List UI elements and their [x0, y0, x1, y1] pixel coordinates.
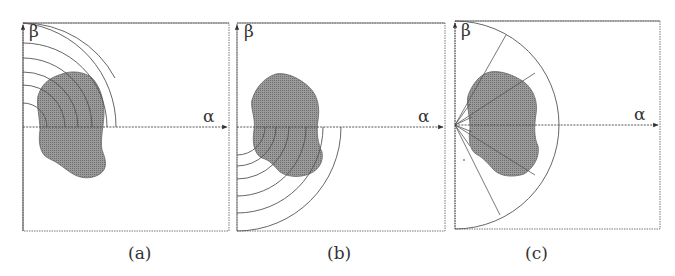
- panel-c-dot: [463, 159, 465, 161]
- panel-c-beta-label: β: [461, 20, 471, 40]
- panel-c-caption: (c): [525, 243, 548, 263]
- panel-a-alpha-label: α: [203, 106, 214, 126]
- panel-a-beta-label: β: [29, 21, 39, 41]
- panel-b-shape: [252, 74, 323, 177]
- panel-c-shape: [467, 72, 538, 177]
- panel-a-shape: [37, 72, 105, 178]
- panel-b-alpha-label: α: [418, 106, 429, 126]
- panel-b-beta-label: β: [244, 21, 254, 41]
- panel-a: [23, 23, 229, 231]
- panel-c-alpha-label: α: [634, 104, 645, 124]
- panel-b: [237, 23, 445, 231]
- panel-b-caption: (b): [327, 243, 351, 263]
- panel-a-caption: (a): [128, 243, 151, 263]
- figure-canvas: [0, 0, 675, 276]
- panel-c: [455, 21, 660, 229]
